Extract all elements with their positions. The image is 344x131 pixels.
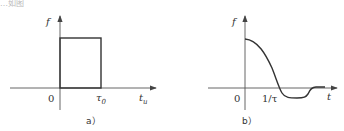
diagram-canvas bbox=[0, 0, 344, 131]
figure: …如图 f 0 τ0 tu a） f 0 1/τ t b） bbox=[0, 0, 344, 131]
panel-a-y-label: f bbox=[46, 17, 50, 27]
panel-b-x-label: t bbox=[327, 92, 331, 102]
panel-a-x-label: tu bbox=[139, 93, 148, 107]
panel-b-curve bbox=[245, 39, 325, 98]
panel-b-caption: b） bbox=[242, 116, 257, 126]
panel-b-y-label: f bbox=[232, 17, 236, 27]
panel-a-tick-label: τ0 bbox=[96, 93, 106, 107]
panel-a-rect-pulse bbox=[60, 38, 101, 88]
panel-a-plot bbox=[10, 16, 156, 110]
panel-b-origin-label: 0 bbox=[234, 94, 240, 104]
panel-a-caption: a） bbox=[86, 116, 101, 126]
panel-b-tick-label: 1/τ bbox=[262, 94, 277, 104]
panel-a-origin-label: 0 bbox=[48, 94, 54, 104]
